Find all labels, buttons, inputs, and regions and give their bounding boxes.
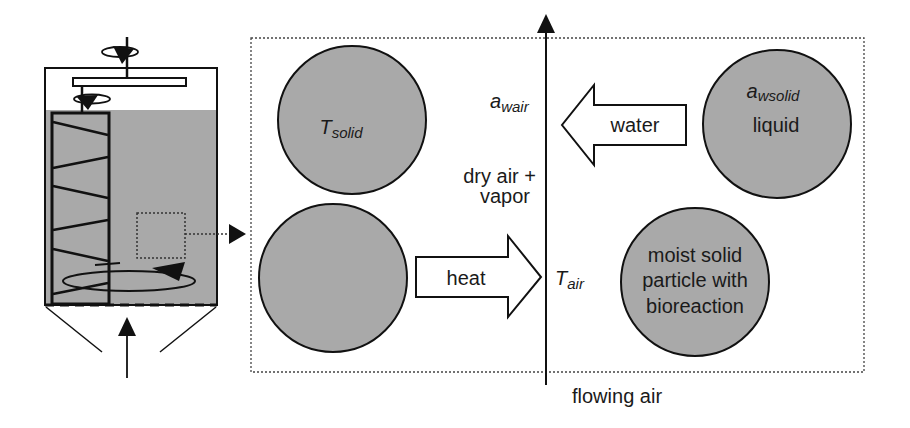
water-arrow-label: water xyxy=(610,114,660,136)
zoom-box xyxy=(251,14,864,385)
reactor-diagram xyxy=(45,37,246,378)
moist-solid-line2: particle with xyxy=(642,269,748,291)
moist-solid-line3: bioreaction xyxy=(646,295,744,317)
hopper-right xyxy=(160,307,216,352)
particle-t-solid xyxy=(278,46,426,194)
diagram-canvas: Tsolid awair dry air + vapor water awsol… xyxy=(0,0,910,428)
flowing-air-arrowhead xyxy=(537,14,555,33)
liquid-label: liquid xyxy=(753,114,800,136)
heat-arrow-label: heat xyxy=(447,267,486,289)
zoom-leader-arrowhead xyxy=(229,224,246,244)
particle-plain xyxy=(259,204,407,352)
moist-solid-line1: moist solid xyxy=(648,244,742,266)
air-inlet-arrowhead xyxy=(118,317,136,336)
gantry-bar xyxy=(73,78,186,86)
t-air-label: Tair xyxy=(555,267,585,292)
flowing-air-label: flowing air xyxy=(572,385,662,407)
dry-air-label-line1: dry air + xyxy=(463,165,536,187)
hopper-left xyxy=(46,307,102,352)
dry-air-label-line2: vapor xyxy=(480,185,530,207)
drive-rotation-arrow-icon xyxy=(113,46,134,64)
a-wair-label: awair xyxy=(490,90,530,115)
